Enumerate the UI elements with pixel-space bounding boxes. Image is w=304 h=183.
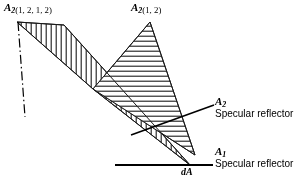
label-da-symbol: dA [181, 166, 193, 177]
label-a2-12-args: (1, 2) [142, 5, 161, 15]
label-a1-specular-reflector: A1 Specular reflector [215, 146, 293, 170]
label-a2-12: A2(1, 2) [131, 2, 161, 15]
label-a2-1212: A2(1, 2, 1, 2) [4, 2, 52, 15]
label-a2-specular-caption: Specular reflector [215, 109, 293, 120]
label-a2-1212-args: (1, 2, 1, 2) [15, 5, 52, 15]
label-a2-specular-symbol-group: A2 [215, 96, 293, 109]
specular-reflector-diagram: A2(1, 2, 1, 2) A2(1, 2) A2 Specular refl… [0, 0, 304, 183]
label-a1-specular-symbol-group: A1 [215, 146, 293, 159]
label-da: dA [181, 167, 193, 178]
dash-dot-axis-line [18, 22, 25, 117]
label-a2-specular-reflector: A2 Specular reflector [215, 96, 293, 120]
label-a1-specular-caption: Specular reflector [215, 159, 293, 170]
